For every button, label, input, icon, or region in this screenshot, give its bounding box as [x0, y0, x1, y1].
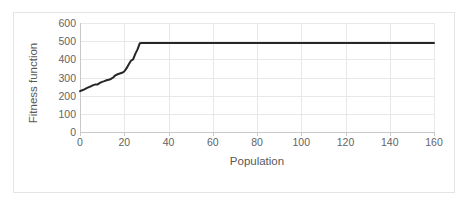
chart-container: 6005004003002001000 02040608010012014016… [13, 12, 455, 193]
x-axis-tick-label: 20 [109, 136, 139, 148]
x-axis-tick-label: 80 [242, 136, 272, 148]
series-line-fitness-function [80, 23, 434, 132]
x-axis-tick-label: 100 [286, 136, 316, 148]
y-axis-tick-label: 200 [48, 91, 76, 101]
x-axis-tick-label: 160 [419, 136, 449, 148]
y-axis-tick-label: 100 [48, 109, 76, 119]
x-axis-tick-label: 0 [65, 136, 95, 148]
y-axis-tick-label: 300 [48, 73, 76, 83]
gridline-vertical [434, 23, 435, 132]
y-axis-title: Fitness function [27, 23, 39, 143]
y-axis-tick-label: 500 [48, 36, 76, 46]
x-axis-title: Population [80, 155, 434, 167]
x-axis-tick-label: 60 [198, 136, 228, 148]
x-axis-tick-labels: 020406080100120140160 [80, 136, 434, 150]
x-axis-tick-label: 140 [375, 136, 405, 148]
y-axis-tick-label: 600 [48, 18, 76, 28]
y-axis-tick-label: 400 [48, 54, 76, 64]
x-axis-tick-label: 120 [331, 136, 361, 148]
x-axis-tick-label: 40 [154, 136, 184, 148]
plot-area [80, 23, 434, 132]
y-axis-tick-labels: 6005004003002001000 [46, 23, 76, 132]
